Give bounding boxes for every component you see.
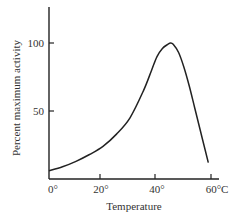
x-tick-label-60: 60°C: [206, 183, 229, 195]
x-tick-label-40: 40°: [149, 183, 164, 195]
y-tick-label-50: 50: [33, 105, 45, 117]
x-axis-title: Temperature: [106, 200, 162, 212]
activity-curve: [49, 43, 208, 171]
y-tick-label-100: 100: [28, 37, 45, 49]
x-tick-label-0: 0°: [48, 183, 58, 195]
x-tick-label-20: 20°: [93, 183, 108, 195]
y-axis-title: Percent maximum activity: [10, 39, 22, 156]
enzyme-activity-chart: 100 50 0° 20° 40° 60°C Temperature Perce…: [0, 0, 239, 222]
